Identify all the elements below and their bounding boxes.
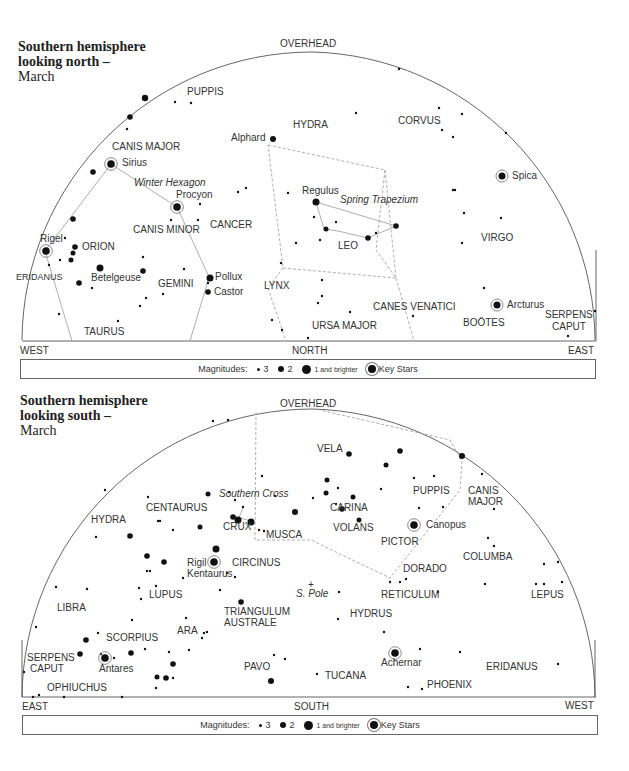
star-icon bbox=[316, 673, 318, 675]
star-icon bbox=[198, 525, 203, 530]
constellation-label: CANIS MINOR bbox=[133, 224, 200, 235]
legend-key-stars: Key Stars bbox=[370, 720, 420, 730]
star-name-label: Alphard bbox=[231, 132, 265, 143]
constellation-label: MUSCA bbox=[266, 529, 302, 540]
star-icon bbox=[313, 216, 315, 218]
star-icon bbox=[145, 297, 147, 299]
star-icon bbox=[127, 533, 133, 539]
star-icon bbox=[97, 632, 99, 634]
star-icon bbox=[173, 203, 181, 211]
star-icon bbox=[207, 282, 209, 284]
s-pole-cross-icon: + bbox=[308, 579, 314, 590]
star-icon bbox=[375, 232, 377, 234]
star-icon bbox=[219, 589, 221, 591]
mag3-label: 3 bbox=[265, 720, 270, 730]
star-icon bbox=[594, 310, 596, 312]
mag2-dot-icon bbox=[280, 722, 286, 728]
star-icon bbox=[228, 491, 230, 493]
star-icon bbox=[163, 675, 169, 681]
star-icon bbox=[100, 653, 102, 655]
constellation-label: SCORPIUS bbox=[106, 632, 159, 643]
constellation-label: CANCER bbox=[210, 219, 252, 230]
star-icon bbox=[238, 599, 244, 605]
star-icon bbox=[438, 107, 440, 109]
star-icon bbox=[421, 688, 423, 690]
north-north-label: NORTH bbox=[292, 345, 327, 356]
star-icon bbox=[146, 570, 148, 572]
star-icon bbox=[227, 419, 229, 421]
legend-mag1: 1 and brighter bbox=[304, 721, 359, 730]
star-name-label: Procyon bbox=[176, 189, 213, 200]
star-icon bbox=[97, 265, 104, 272]
star-name-label: Canopus bbox=[426, 519, 466, 530]
star-icon bbox=[170, 219, 172, 221]
star-icon bbox=[71, 251, 76, 256]
star-icon bbox=[398, 68, 400, 70]
constellation-label: PICTOR bbox=[381, 536, 419, 547]
star-icon bbox=[365, 235, 371, 241]
star-icon bbox=[183, 268, 185, 270]
star-icon bbox=[419, 648, 421, 650]
star-name-label: Rigel bbox=[40, 233, 63, 244]
star-icon bbox=[237, 191, 239, 193]
north-star-chart: PUPPISHYDRACORVUSCANIS MAJORCANIS MINORC… bbox=[0, 0, 629, 390]
star-icon bbox=[281, 329, 283, 331]
constellation-label: LIBRA bbox=[57, 602, 86, 613]
star-icon bbox=[144, 553, 150, 559]
star-icon bbox=[493, 545, 495, 547]
star-icon bbox=[138, 587, 140, 589]
star-icon bbox=[271, 319, 273, 321]
star-name-label: Achernar bbox=[381, 657, 422, 668]
star-icon bbox=[410, 521, 418, 529]
constellation-label: OPHIUCHUS bbox=[47, 682, 107, 693]
star-icon bbox=[32, 696, 34, 698]
constellation-label: CRUX bbox=[223, 521, 252, 532]
key-star-ring-icon bbox=[208, 556, 221, 569]
star-icon bbox=[313, 199, 320, 206]
star-icon bbox=[155, 585, 157, 587]
star-name-label: Regulus bbox=[302, 185, 339, 196]
star-icon bbox=[412, 315, 414, 317]
legend-mag3: 3 bbox=[259, 720, 270, 730]
star-icon bbox=[210, 558, 218, 566]
star-icon bbox=[461, 242, 463, 244]
star-icon bbox=[206, 631, 208, 633]
star-icon bbox=[284, 658, 286, 660]
constellation-label: HYDRA bbox=[91, 514, 126, 525]
star-icon bbox=[351, 495, 356, 500]
star-icon bbox=[59, 259, 61, 261]
star-icon bbox=[172, 677, 174, 679]
star-icon bbox=[407, 686, 409, 688]
star-icon bbox=[437, 591, 439, 593]
star-icon bbox=[126, 128, 128, 130]
star-icon bbox=[307, 337, 309, 339]
star-icon bbox=[287, 192, 289, 194]
constellation-label: HYDRUS bbox=[350, 608, 393, 619]
star-icon bbox=[139, 305, 141, 307]
constellation-label: LYNX bbox=[264, 280, 290, 291]
constellation-label: CARINA bbox=[330, 502, 368, 513]
south-east-label: EAST bbox=[22, 701, 48, 712]
constellation-label: PUPPIS bbox=[413, 485, 450, 496]
south-stars bbox=[23, 419, 563, 698]
south-west-label: WEST bbox=[565, 700, 594, 711]
constellation-label: TUCANA bbox=[325, 670, 366, 681]
star-icon bbox=[487, 537, 489, 539]
star-icon bbox=[459, 651, 461, 653]
constellation-label: COLUMBA bbox=[463, 551, 513, 562]
star-icon bbox=[405, 578, 407, 580]
constellation-label: ARA bbox=[177, 625, 198, 636]
constellation-label: URSA MAJOR bbox=[312, 320, 377, 331]
star-icon bbox=[147, 496, 149, 498]
north-east-label: EAST bbox=[568, 345, 594, 356]
star-icon bbox=[312, 497, 314, 499]
north-west-label: WEST bbox=[20, 345, 49, 356]
mag3-dot-icon bbox=[257, 368, 260, 371]
mag1-dot-icon bbox=[302, 365, 311, 374]
constellation-label: ERIDANUS bbox=[16, 272, 63, 282]
star-icon bbox=[234, 499, 236, 501]
star-icon bbox=[380, 488, 382, 490]
star-icon bbox=[235, 517, 242, 524]
asterism-label: Southern Cross bbox=[219, 488, 288, 499]
north-overhead-label: OVERHEAD bbox=[280, 38, 336, 49]
